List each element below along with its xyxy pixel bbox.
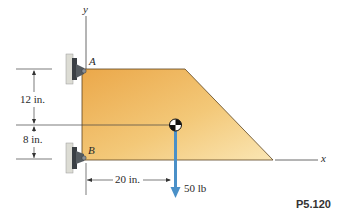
problem-number: P5.120 bbox=[296, 198, 331, 210]
support-b-label: B bbox=[88, 144, 95, 156]
dim-12in-label: 12 in. bbox=[20, 93, 45, 105]
dim-20in-label: 20 in. bbox=[115, 173, 140, 185]
y-axis-label: y bbox=[83, 3, 88, 15]
dim-8in-label: 8 in. bbox=[23, 133, 43, 145]
diagram-canvas bbox=[0, 0, 344, 221]
plate bbox=[82, 69, 273, 160]
support-a-label: A bbox=[89, 55, 96, 67]
center-of-gravity-icon bbox=[170, 119, 182, 131]
x-axis-label: x bbox=[321, 152, 326, 164]
load-label: 50 lb bbox=[184, 182, 206, 194]
